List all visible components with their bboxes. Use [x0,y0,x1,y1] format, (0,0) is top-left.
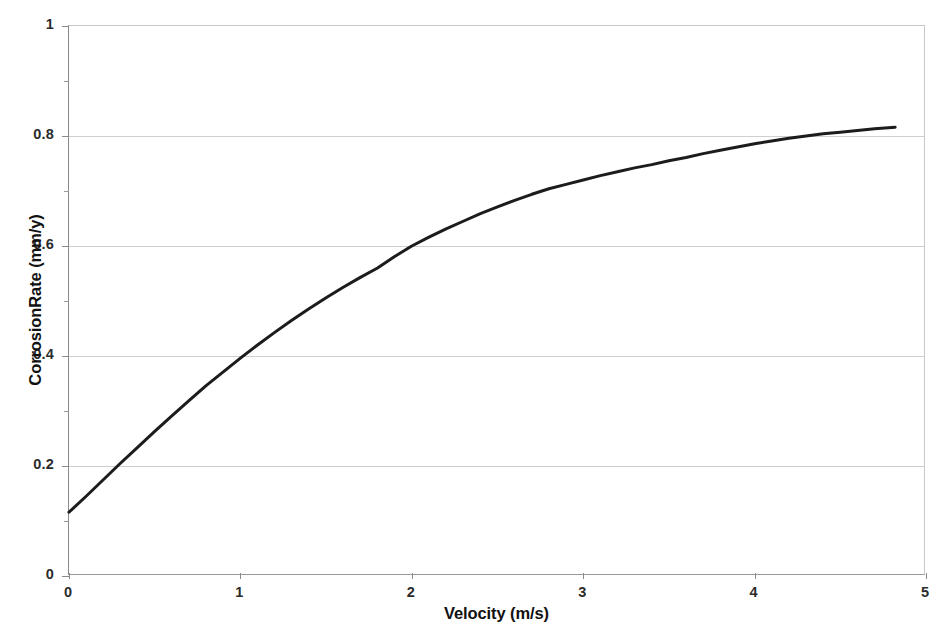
y-tick-mark [62,26,69,27]
plot-area [68,25,925,575]
y-tick-mark [62,356,69,357]
y-tick-mark [62,246,69,247]
data-series-line [69,26,926,576]
y-tick-mark [62,576,69,577]
x-tick-mark [926,573,927,579]
x-tick-label: 1 [235,584,243,600]
x-tick-label: 5 [921,584,929,600]
y-tick-mark [62,466,69,467]
x-tick-label: 2 [407,584,415,600]
x-tick-label: 4 [750,584,758,600]
y-tick-mark [62,136,69,137]
chart-figure: 00.20.40.60.81 012345 CorrosionRate (mm/… [0,0,939,643]
x-tick-label: 3 [578,584,586,600]
y-axis-title: CorrosionRate (mm/y) [26,25,45,575]
x-axis-title: Velocity (m/s) [68,604,925,623]
x-tick-label: 0 [64,584,72,600]
